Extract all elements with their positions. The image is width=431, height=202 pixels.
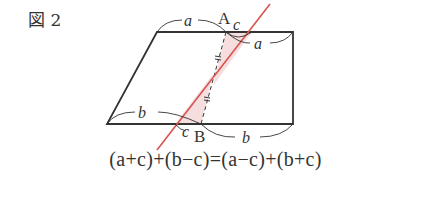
label-top-a: a <box>184 12 192 29</box>
shaded-triangle-top <box>213 32 252 86</box>
label-bottom-right-b: b <box>242 129 250 146</box>
trapezoid-diagram: a A c a b c B b <box>0 0 431 202</box>
equation: (a+c)+(b−c)=(a−c)+(b+c) <box>0 148 431 171</box>
shaded-triangle-bottom <box>175 74 213 124</box>
label-top-c: c <box>233 16 240 33</box>
label-point-b: B <box>194 127 205 146</box>
red-cut-line <box>157 4 270 150</box>
label-point-a: A <box>218 9 231 28</box>
label-top-right-a: a <box>254 35 262 52</box>
label-bottom-b: b <box>138 104 146 121</box>
label-bottom-c: c <box>182 123 189 140</box>
